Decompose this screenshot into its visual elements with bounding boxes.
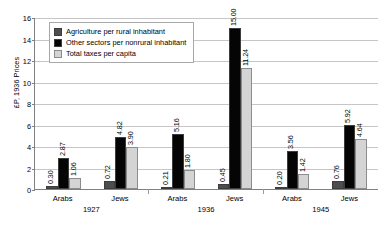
bar-value-label: 0.72 — [104, 166, 113, 180]
bar: 11.24 — [241, 68, 252, 189]
y-axis-tick-label: 16 — [23, 14, 31, 23]
bar-value-label: 1.06 — [69, 162, 78, 176]
bar-value-label: 0.45 — [218, 169, 227, 183]
bar: 0.45 — [218, 184, 229, 189]
bar: 1.06 — [69, 178, 80, 189]
legend: Agriculture per rural inhabitantOther se… — [49, 22, 194, 63]
x-axis-year-label: 1945 — [263, 205, 378, 214]
x-axis-year-label: 1927 — [34, 205, 149, 214]
bar-cluster: 0.765.924.64 — [332, 18, 366, 189]
bar-value-label: 3.56 — [287, 135, 296, 149]
bar-value-label: 0.21 — [161, 171, 170, 185]
x-axis-category-label: Jews — [321, 191, 378, 203]
y-axis-tick-label: 6 — [27, 121, 31, 130]
legend-item: Other sectors per nonrural inhabitant — [54, 37, 186, 48]
bar-value-label: 5.16 — [172, 118, 181, 132]
bar-cluster: 0.203.561.42 — [275, 18, 309, 189]
x-axis-category-label: Jews — [91, 191, 148, 203]
legend-item: Total taxes per capita — [54, 48, 186, 59]
bar: 4.82 — [115, 137, 126, 189]
bar-value-label: 0.30 — [46, 170, 55, 184]
y-axis-tick-label: 10 — [23, 78, 31, 87]
bar: 0.30 — [46, 186, 57, 189]
legend-swatch — [54, 50, 62, 58]
bar-value-label: 4.82 — [115, 122, 124, 136]
bar: 15.00 — [229, 28, 240, 189]
bar: 5.16 — [172, 134, 183, 189]
bar-value-label: 3.90 — [127, 131, 136, 145]
legend-label: Total taxes per capita — [66, 49, 136, 58]
bar-group: 0.765.924.64 — [321, 18, 378, 189]
bar-value-label: 2.87 — [58, 143, 67, 157]
y-axis-tick-label: 12 — [23, 57, 31, 66]
bar: 2.87 — [58, 158, 69, 189]
y-axis-tick-label: 14 — [23, 35, 31, 44]
bar-chart: £P, 1936 Prices 0246810121416 0.302.871.… — [0, 0, 386, 227]
bar-value-label: 0.76 — [332, 165, 341, 179]
bar-value-label: 15.00 — [229, 8, 238, 26]
bar: 5.92 — [344, 125, 355, 189]
y-axis-tick-label: 4 — [27, 143, 31, 152]
x-axis-category-label: Arabs — [34, 191, 91, 203]
legend-label: Agriculture per rural inhabitant — [66, 27, 165, 36]
legend-swatch — [54, 39, 62, 47]
bar: 1.42 — [298, 174, 309, 189]
bar-value-label: 5.92 — [344, 110, 353, 124]
legend-label: Other sectors per nonrural inhabitant — [66, 38, 186, 47]
bar: 1.80 — [184, 170, 195, 189]
x-axis-year-label: 1936 — [149, 205, 264, 214]
bar-group: 0.203.561.42 — [264, 18, 321, 189]
y-axis-title: £P, 1936 Prices — [12, 23, 21, 143]
bar-value-label: 11.24 — [241, 49, 250, 66]
bar: 0.20 — [275, 187, 286, 189]
x-axis-category-label: Jews — [206, 191, 263, 203]
bar-value-label: 1.80 — [184, 154, 193, 168]
bar-value-label: 4.64 — [355, 124, 364, 138]
x-axis-year-labels: 192719361945 — [34, 205, 378, 214]
legend-swatch — [54, 28, 62, 36]
bar-cluster: 0.4515.0011.24 — [218, 18, 252, 189]
x-axis-category-labels: ArabsJewsArabsJewsArabsJews — [34, 191, 378, 203]
x-axis-category-label: Arabs — [149, 191, 206, 203]
bar-value-label: 0.20 — [275, 171, 284, 185]
bar: 0.72 — [104, 181, 115, 189]
bar: 4.64 — [355, 139, 366, 189]
x-axis-category-label: Arabs — [263, 191, 320, 203]
legend-item: Agriculture per rural inhabitant — [54, 26, 186, 37]
bar: 3.56 — [287, 151, 298, 189]
bar: 0.21 — [161, 187, 172, 189]
bar: 0.76 — [332, 181, 343, 189]
bar-value-label: 1.42 — [298, 158, 307, 172]
y-axis-tick-label: 8 — [27, 100, 31, 109]
y-axis-tick-label: 2 — [27, 164, 31, 173]
bar: 3.90 — [126, 147, 137, 189]
bar-group: 0.4515.0011.24 — [207, 18, 264, 189]
y-axis-tick-label: 0 — [27, 186, 31, 195]
